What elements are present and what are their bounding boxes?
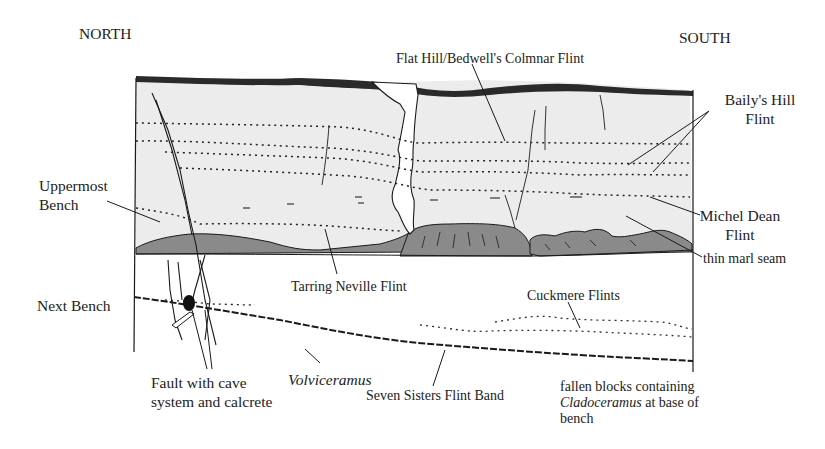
next-bench-label: Next Bench — [37, 296, 111, 315]
bailys-hill-flint-label: Baily's Hill Flint — [700, 90, 820, 128]
thin-marl-seam-label: thin marl seam — [703, 251, 786, 267]
fault-cave-calcrete-label: Fault with cave system and calcrete — [151, 373, 272, 411]
seven-sisters-flint-band-label: Seven Sisters Flint Band — [366, 388, 504, 404]
cuckmere-flint-bands — [420, 316, 692, 337]
tarring-neville-flint-label: Tarring Neville Flint — [291, 279, 407, 295]
seven-sisters-flint-band — [134, 297, 693, 361]
left-edge-line — [134, 78, 136, 352]
flat-hill-flint-label: Flat Hill/Bedwell's Colmnar Flint — [396, 51, 584, 67]
michel-dean-flint-label: Michel Dean Flint — [690, 206, 790, 244]
north-label: NORTH — [79, 24, 131, 43]
uppermost-bench-label: Uppermost Bench — [39, 176, 108, 214]
volviceramus-label: Volviceramus — [288, 370, 372, 389]
cuckmere-flints-label: Cuckmere Flints — [527, 288, 620, 304]
south-label: SOUTH — [679, 28, 731, 47]
marl-base-center — [400, 224, 532, 256]
fallen-blocks-label: fallen blocks containing Cladoceramus at… — [560, 379, 699, 427]
cave-calcrete — [183, 295, 195, 311]
